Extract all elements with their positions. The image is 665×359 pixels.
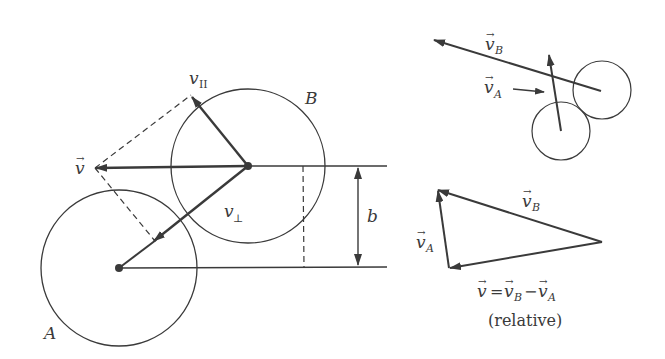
dashed-line-upper	[95, 95, 191, 168]
label-triangle-v-b: v → B	[522, 186, 540, 214]
svg-text:−: −	[524, 282, 537, 301]
vector-v-b-small	[434, 40, 601, 91]
triangle-v-b	[438, 190, 602, 242]
top-right-diagram: v → B v → A	[434, 29, 631, 160]
center-dot-a	[115, 264, 123, 272]
label-circle-b: B	[304, 88, 318, 108]
svg-text:II: II	[199, 78, 208, 91]
svg-text:→: →	[523, 186, 532, 197]
label-circle-a: A	[42, 323, 56, 343]
pointer-arrow-v-a	[513, 89, 544, 92]
line-center-a	[119, 267, 387, 268]
svg-text:A: A	[425, 242, 434, 255]
svg-text:→: →	[485, 72, 494, 83]
svg-text:v: v	[189, 68, 199, 88]
svg-text:→: →	[417, 227, 426, 238]
collision-diagram: A B v → v II v ⊥ b v → B v → A	[0, 0, 665, 359]
svg-text:→: →	[76, 153, 85, 164]
svg-text:B: B	[513, 291, 522, 304]
label-b: b	[367, 206, 378, 226]
center-dot-b	[244, 162, 252, 170]
svg-text:→: →	[505, 276, 514, 287]
dashed-vertical	[303, 166, 304, 267]
label-v-perp: v ⊥	[224, 201, 243, 225]
svg-text:B: B	[531, 201, 540, 214]
triangle-v-a	[438, 191, 449, 268]
svg-text:=: =	[490, 282, 503, 301]
vector-v-perp	[154, 166, 248, 241]
label-v-b-small: v → B	[485, 29, 503, 57]
relative-velocity-equation: v → = v → B − v → A	[477, 276, 556, 304]
label-v-parallel: v II	[189, 68, 208, 91]
line-a-to-v-perp	[119, 240, 156, 268]
svg-text:⊥: ⊥	[233, 212, 243, 225]
vector-v	[96, 166, 248, 168]
vector-v-parallel	[192, 97, 248, 166]
svg-text:→: →	[478, 276, 487, 287]
dashed-line-lower	[95, 168, 155, 241]
vector-triangle: v → B v → A v → = v → B − v → A (relativ…	[416, 186, 602, 330]
svg-text:A: A	[493, 88, 502, 101]
svg-text:A: A	[547, 291, 556, 304]
svg-text:→: →	[539, 276, 548, 287]
label-v-a-small: v → A	[484, 72, 502, 101]
main-diagram: A B v → v II v ⊥ b	[41, 68, 387, 346]
svg-text:→: →	[486, 29, 495, 40]
label-v: v →	[75, 153, 85, 178]
vector-v-a-small	[549, 55, 561, 131]
svg-text:B: B	[494, 44, 503, 57]
label-triangle-v-a: v → A	[416, 227, 434, 255]
label-relative: (relative)	[488, 311, 562, 330]
triangle-v-relative	[450, 242, 602, 268]
